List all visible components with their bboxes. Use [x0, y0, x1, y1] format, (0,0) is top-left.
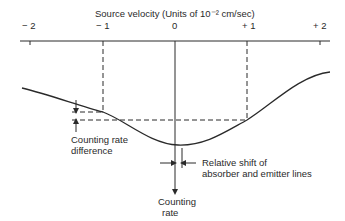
counting-rate-difference-label-2: difference — [71, 145, 113, 156]
counting-rate-axis-label-2: rate — [162, 207, 178, 218]
counting-rate-axis-label: Counting — [158, 196, 196, 207]
absorption-curve — [22, 72, 330, 145]
relative-shift-label-2: absorber and emitter lines — [202, 168, 312, 179]
mossbauer-diagram — [0, 0, 345, 221]
counting-rate-difference-label: Counting rate — [71, 134, 128, 145]
relative-shift-label: Relative shift of — [202, 157, 267, 168]
